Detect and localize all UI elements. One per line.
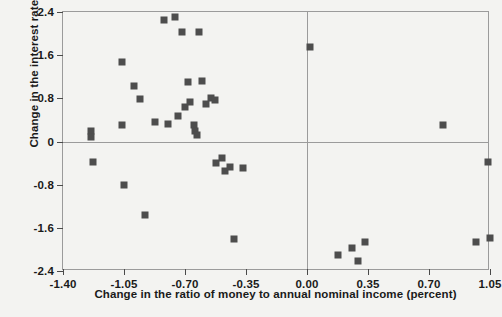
y-axis-tick	[57, 142, 63, 143]
y-axis-tick-label: -1.6	[33, 222, 54, 234]
x-axis-tick	[429, 269, 430, 275]
data-point	[487, 234, 494, 241]
data-point	[227, 163, 234, 170]
x-axis-tick	[124, 269, 125, 275]
data-point	[178, 28, 185, 35]
x-axis-tick	[63, 269, 64, 275]
data-point	[335, 251, 342, 258]
data-point	[136, 96, 143, 103]
x-axis-tick	[185, 269, 186, 275]
data-point	[141, 211, 148, 218]
data-point	[307, 43, 314, 50]
data-point	[349, 245, 356, 252]
y-axis-tick	[57, 228, 63, 229]
data-point	[152, 119, 159, 126]
zero-line-vertical	[307, 12, 308, 269]
y-axis-tick	[57, 185, 63, 186]
data-point	[194, 132, 201, 139]
data-point	[89, 159, 96, 166]
plot-frame: 2.41.60.80-0.8-1.6-2.4-1.40-1.05-0.70-0.…	[62, 11, 489, 270]
y-axis-tick	[57, 98, 63, 99]
data-point	[230, 235, 237, 242]
data-point	[185, 79, 192, 86]
data-point	[354, 258, 361, 265]
x-axis-tick	[246, 269, 247, 275]
plot-area	[63, 12, 488, 269]
data-point	[439, 122, 446, 129]
data-point	[131, 83, 138, 90]
data-point	[161, 17, 168, 24]
y-axis-title: Change in the interest rate (percent)	[28, 0, 40, 162]
data-point	[187, 99, 194, 106]
y-axis-tick	[57, 55, 63, 56]
data-point	[361, 238, 368, 245]
data-point	[199, 78, 206, 85]
y-axis-tick-label: 0.8	[37, 92, 54, 104]
x-axis-tick	[368, 269, 369, 275]
zero-line-horizontal	[63, 142, 488, 143]
x-axis-tick	[490, 269, 491, 275]
data-point	[121, 181, 128, 188]
y-axis-tick-label: 2.4	[37, 6, 54, 18]
y-axis-tick	[57, 12, 63, 13]
y-axis-tick-label: 1.6	[37, 49, 54, 61]
y-axis-tick-label: -2.4	[33, 265, 54, 277]
y-axis-tick-label: 0	[47, 136, 54, 148]
x-axis-tick	[307, 269, 308, 275]
y-axis-title-wrapper: Change in the interest rate (percent)	[14, 11, 15, 270]
data-point	[175, 113, 182, 120]
figure: Change in the interest rate (percent) 2.…	[0, 0, 502, 317]
data-point	[164, 120, 171, 127]
data-point	[239, 165, 246, 172]
data-point	[211, 97, 218, 104]
x-axis-title: Change in the ratio of money to annual n…	[62, 288, 489, 300]
data-point	[87, 134, 94, 141]
data-point	[485, 159, 492, 166]
data-point	[218, 154, 225, 161]
data-point	[119, 58, 126, 65]
data-point	[119, 122, 126, 129]
data-point	[171, 14, 178, 21]
data-point	[195, 28, 202, 35]
data-point	[473, 238, 480, 245]
y-axis-tick-label: -0.8	[33, 179, 54, 191]
